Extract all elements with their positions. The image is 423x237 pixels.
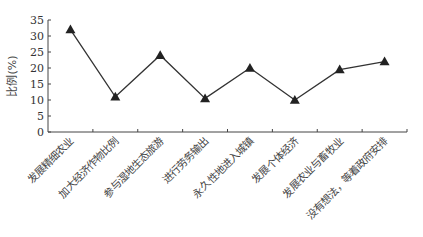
data-point-marker: [290, 95, 300, 104]
y-tick-label: 15: [30, 78, 44, 91]
y-tick-label: 10: [30, 94, 44, 107]
data-point-marker: [380, 57, 390, 66]
y-tick-label: 5: [37, 110, 44, 123]
y-tick-label: 0: [37, 126, 44, 139]
data-point-marker: [65, 25, 75, 34]
y-axis-label: 比例(%): [5, 55, 19, 96]
series: [65, 25, 389, 104]
y-tick-label: 30: [30, 30, 44, 43]
category-label: 没有想法，等着政府安排: [304, 134, 391, 221]
data-point-marker: [155, 50, 165, 59]
y-tick-label: 35: [30, 14, 44, 27]
y-tick-label: 25: [30, 46, 44, 59]
y-tick-label: 20: [30, 62, 44, 75]
category-labels: 发展精细农业加大经济作物比例参与湿地生态旅游进行劳务输出永久性地进入城镇发展个体…: [25, 134, 391, 221]
line-chart: 05101520253035 比例(%) 发展精细农业加大经济作物比例参与湿地生…: [0, 0, 423, 237]
series-line: [70, 30, 384, 100]
data-point-marker: [245, 63, 255, 72]
